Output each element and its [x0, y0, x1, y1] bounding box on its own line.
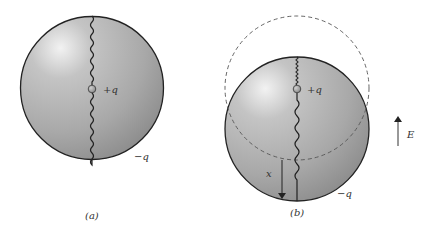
point-charge-a	[88, 85, 96, 93]
inner-charge-label-a: +q	[103, 84, 118, 95]
point-charge-b	[293, 85, 301, 93]
panel-b: x +q −q (b)	[225, 16, 369, 218]
electric-field-indicator: E	[398, 119, 415, 146]
spring-upper-b	[296, 57, 298, 85]
outer-charge-label-b: −q	[337, 188, 352, 199]
diagram-canvas: +q −q (a) x +q −q (b) E	[0, 0, 434, 228]
caption-b: (b)	[290, 207, 304, 218]
panel-a: +q −q (a)	[21, 16, 164, 221]
caption-a: (a)	[85, 210, 99, 221]
field-label: E	[406, 129, 415, 140]
inner-charge-label-b: +q	[307, 84, 322, 95]
displacement-label: x	[266, 168, 272, 179]
outer-charge-label-a: −q	[134, 151, 149, 162]
